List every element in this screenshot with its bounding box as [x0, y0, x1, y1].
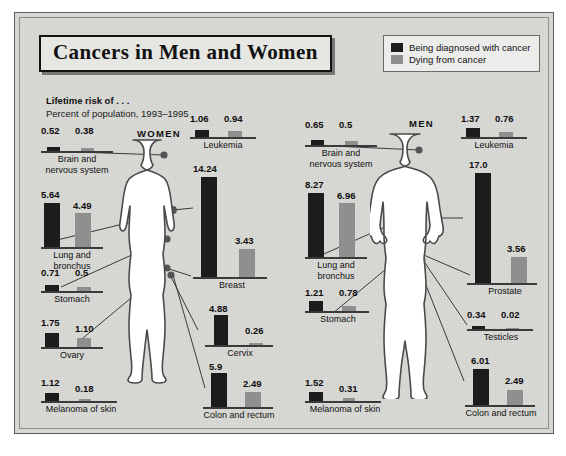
bar-category-label: Stomach: [37, 294, 107, 305]
value-dying: 2.49: [505, 375, 524, 386]
legend: Being diagnosed with cancer Dying from c…: [383, 35, 540, 72]
value-diagnosed: 5.64: [41, 189, 60, 200]
bar-baseline: [41, 247, 103, 249]
value-dying: 0.38: [75, 125, 94, 136]
bar-category-label: Brain and nervous system: [301, 148, 381, 170]
bar-baseline: [41, 151, 113, 153]
bar-diagnosed: [201, 177, 217, 277]
bar-category-label: Ovary: [37, 350, 107, 361]
bar-baseline: [41, 291, 103, 293]
poster-frame: Cancers in Men and Women Being diagnosed…: [14, 12, 554, 434]
bar-baseline: [467, 283, 537, 285]
bar-diagnosed: [195, 130, 209, 137]
bar-category-label: Melanoma of skin: [301, 404, 389, 415]
value-dying: 0.94: [224, 113, 243, 124]
bar-baseline: [205, 345, 273, 347]
value-dying: 3.56: [507, 243, 526, 254]
bar-category-label: Colon and rectum: [459, 408, 543, 419]
value-diagnosed: 5.9: [209, 361, 222, 372]
value-diagnosed: 1.37: [461, 113, 480, 124]
page-title: Cancers in Men and Women: [39, 35, 332, 72]
bar-dying: [339, 203, 355, 257]
page-title-text: Cancers in Men and Women: [53, 40, 318, 65]
bar-diagnosed: [309, 301, 323, 311]
subtitle-block: Lifetime risk of . . . Percent of popula…: [46, 95, 189, 119]
value-diagnosed: 1.21: [305, 287, 324, 298]
bar-category-label: Testicles: [473, 332, 529, 343]
bar-baseline: [41, 401, 117, 403]
legend-label-diagnosed: Being diagnosed with cancer: [409, 42, 530, 53]
bar-dying: [239, 249, 255, 277]
value-dying: 0.76: [495, 113, 514, 124]
bargroup-men-lung: 8.27 6.96 Lung and bronchus: [305, 179, 367, 257]
bar-category-label: Prostate: [477, 286, 533, 297]
legend-swatch-dying: [391, 55, 403, 64]
infographic-canvas: Cancers in Men and Women Being diagnosed…: [0, 0, 566, 456]
value-diagnosed: 1.52: [305, 377, 324, 388]
bar-category-label: Leukemia: [190, 140, 256, 151]
bar-baseline: [305, 145, 377, 147]
value-dying: 2.49: [243, 378, 262, 389]
bargroup-women-lung: 5.64 4.49 Lung and bronchus: [41, 189, 103, 247]
bar-dying: [245, 392, 261, 407]
bargroup-women-cervix: 4.88 0.26 Cervix: [201, 303, 277, 345]
bargroup-men-brain: 0.65 0.5 Brain and nervous system: [305, 119, 377, 145]
value-dying: 1.10: [75, 323, 94, 334]
bar-diagnosed: [45, 393, 59, 401]
bar-baseline: [41, 347, 103, 349]
value-dying: 0.26: [245, 325, 264, 336]
legend-item-diagnosed: Being diagnosed with cancer: [391, 42, 530, 53]
value-diagnosed: 6.01: [471, 355, 490, 366]
legend-swatch-diagnosed: [391, 43, 403, 52]
value-dying: 0.18: [75, 383, 94, 394]
men-figure-label: MEN: [409, 118, 434, 129]
value-dying: 3.43: [235, 235, 254, 246]
value-dying: 0.02: [501, 309, 520, 320]
value-diagnosed: 0.71: [41, 267, 60, 278]
man-silhouette: [370, 131, 470, 399]
legend-label-dying: Dying from cancer: [409, 54, 486, 65]
bargroup-men-stomach: 1.21 0.78 Stomach: [305, 287, 369, 311]
bargroup-women-melanoma: 1.12 0.18 Melanoma of skin: [41, 377, 125, 401]
bar-category-label: Stomach: [303, 314, 373, 325]
bargroup-men-colon: 6.01 2.49 Colon and rectum: [463, 355, 549, 405]
bar-baseline: [305, 311, 369, 313]
bar-dying: [75, 213, 91, 247]
legend-item-dying: Dying from cancer: [391, 54, 530, 65]
bar-diagnosed: [214, 315, 228, 345]
value-diagnosed: 0.65: [305, 119, 324, 130]
value-dying: 0.5: [339, 119, 352, 130]
bar-baseline: [467, 329, 533, 331]
bargroup-men-testicles: 0.34 0.02 Testicles: [467, 309, 537, 329]
bar-baseline: [305, 401, 381, 403]
bar-diagnosed: [45, 333, 59, 347]
bar-baseline: [305, 257, 367, 259]
value-dying: 6.96: [337, 190, 356, 201]
value-diagnosed: 1.06: [190, 113, 209, 124]
bargroup-men-melanoma: 1.52 0.31 Melanoma of skin: [305, 377, 389, 401]
value-dying: 4.49: [73, 200, 92, 211]
bar-diagnosed: [308, 193, 324, 257]
bar-diagnosed: [211, 373, 227, 407]
bar-baseline: [203, 407, 273, 409]
bargroup-men-leukemia: 1.37 0.76 Leukemia: [461, 113, 527, 137]
bar-diagnosed: [466, 128, 480, 137]
value-dying: 0.5: [75, 267, 88, 278]
bar-category-label: Leukemia: [461, 140, 527, 151]
bar-category-label: Lung and bronchus: [299, 260, 373, 282]
value-dying: 0.78: [339, 287, 358, 298]
bargroup-women-breast: 14.24 3.43 Breast: [193, 163, 267, 277]
bargroup-women-brain: 0.52 0.38 Brain and nervous system: [41, 125, 113, 151]
value-diagnosed: 1.12: [41, 377, 60, 388]
bargroup-men-prostate: 17.0 3.56 Prostate: [467, 159, 541, 283]
bar-dying: [77, 338, 91, 347]
bar-diagnosed: [473, 369, 489, 405]
bargroup-women-ovary: 1.75 1.10 Ovary: [41, 317, 103, 347]
value-diagnosed: 8.27: [305, 179, 324, 190]
bar-category-label: Melanoma of skin: [37, 404, 125, 415]
value-diagnosed: 4.88: [209, 303, 228, 314]
bargroup-women-colon: 5.9 2.49 Colon and rectum: [201, 361, 287, 407]
value-diagnosed: 1.75: [41, 317, 60, 328]
bar-baseline: [461, 137, 527, 139]
bar-category-label: Breast: [207, 280, 257, 291]
